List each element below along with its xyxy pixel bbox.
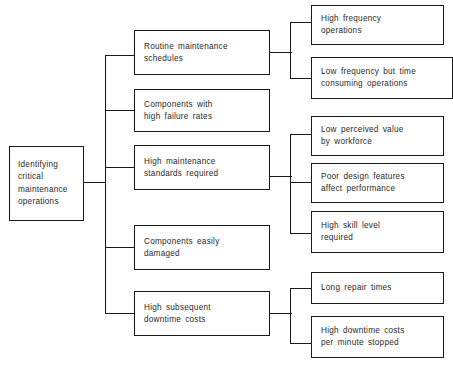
node-high-skill-level-required[interactable]: High skill level required: [311, 211, 444, 253]
node-label: High downtime costs per minute stopped: [312, 325, 410, 348]
connector-group2-to-high-skill: [290, 233, 311, 234]
node-high-subsequent-downtime-costs[interactable]: High subsequent downtime costs: [134, 291, 270, 336]
connector-group1-to-high-frequency: [290, 22, 311, 23]
tree-diagram-canvas: Identifying critical maintenance operati…: [0, 0, 453, 368]
node-components-with-high-failure-rates[interactable]: Components with high failure rates: [134, 89, 270, 132]
connector-spine-to-downtime-costs: [105, 313, 134, 314]
node-high-downtime-costs-per-minute-stopped[interactable]: High downtime costs per minute stopped: [311, 316, 444, 358]
connector-group2-to-low-perceived-value: [290, 134, 311, 135]
node-label: High maintenance standards required: [135, 156, 223, 179]
node-label: Components easily damaged: [135, 236, 224, 259]
node-label: High subsequent downtime costs: [135, 302, 216, 325]
connector-group3-spine: [290, 288, 291, 344]
connector-root-stub: [83, 182, 106, 183]
connector-group2-to-poor-design: [290, 182, 311, 183]
node-low-frequency-but-time-consuming-operations[interactable]: Low frequency but time consuming operati…: [311, 57, 453, 99]
node-long-repair-times[interactable]: Long repair times: [311, 272, 444, 304]
node-label: Low frequency but time consuming operati…: [312, 66, 421, 89]
node-high-frequency-operations[interactable]: High frequency operations: [311, 5, 444, 45]
connector-group1-to-low-frequency: [290, 78, 311, 79]
node-label: High frequency operations: [312, 13, 386, 36]
node-label: High skill level required: [312, 220, 385, 243]
connector-downtime-out: [270, 313, 292, 314]
connector-routine-out: [270, 52, 292, 53]
connector-group2-spine: [290, 134, 291, 234]
node-label: Long repair times: [312, 282, 397, 294]
connector-spine-to-high-standards: [105, 167, 134, 168]
node-label: Routine maintenance schedules: [135, 41, 233, 64]
connector-spine-to-routine: [105, 55, 134, 56]
node-routine-maintenance-schedules[interactable]: Routine maintenance schedules: [134, 30, 270, 75]
node-components-easily-damaged[interactable]: Components easily damaged: [134, 225, 270, 270]
connector-spine-to-components-damaged: [105, 247, 134, 248]
connector-high-standards-out: [270, 176, 292, 177]
node-high-maintenance-standards-required[interactable]: High maintenance standards required: [134, 145, 270, 190]
connector-group1-spine: [290, 22, 291, 79]
node-label: Poor design features affect performance: [312, 171, 410, 194]
node-low-perceived-value-by-workforce[interactable]: Low perceived value by workforce: [311, 116, 444, 156]
connector-group3-to-long-repair: [290, 288, 311, 289]
connector-level2-spine: [105, 55, 106, 314]
node-root-identifying-critical-maintenance-operations[interactable]: Identifying critical maintenance operati…: [9, 146, 84, 221]
connector-spine-to-components-failure: [105, 110, 134, 111]
node-label: Components with high failure rates: [135, 99, 218, 122]
node-poor-design-features-affect-performance[interactable]: Poor design features affect performance: [311, 163, 444, 203]
connector-group3-to-high-downtime-per-minute: [290, 343, 311, 344]
node-label: Low perceived value by workforce: [312, 124, 409, 147]
node-label: Identifying critical maintenance operati…: [10, 159, 73, 208]
